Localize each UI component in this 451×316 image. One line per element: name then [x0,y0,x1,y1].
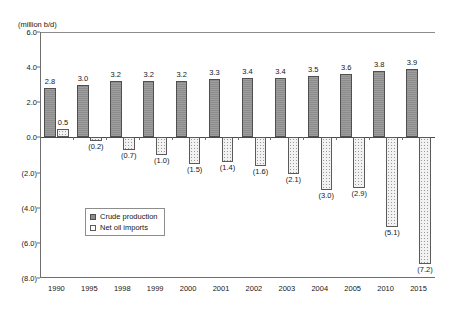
bar-crude-production [209,79,221,137]
bar-value-label-crude: 3.2 [111,70,121,79]
bar-value-label-crude: 3.4 [242,67,252,76]
x-axis-category-label: 2003 [279,284,296,293]
bar-value-label-crude: 3.8 [374,60,384,69]
chart-legend: Crude production Net oil imports [85,208,165,236]
x-axis-tick-mark [303,137,304,140]
bar-value-label-crude: 3.3 [209,68,219,77]
bar-net-oil-imports [386,137,398,227]
legend-item-net-oil-imports: Net oil imports [90,223,158,232]
x-axis-category-label: 2015 [410,284,427,293]
x-axis-tick-mark [270,137,271,140]
x-axis-category-label: 1995 [81,284,98,293]
y-axis-tick-mark [37,207,40,208]
y-axis-tick-mark [37,67,40,68]
bar-value-label-crude: 3.6 [341,63,351,72]
bar-net-oil-imports [123,137,135,149]
bar-crude-production [308,76,320,138]
bar-value-label-imports: (5.1) [384,228,399,237]
bar-net-oil-imports [255,137,267,165]
y-axis-tick-label: (8.0) [22,274,37,283]
bar-crude-production [275,78,287,138]
bar-crude-production [176,81,188,137]
x-axis-category-label: 2005 [344,284,361,293]
y-axis-line [40,32,41,278]
bar-crude-production [373,71,385,138]
y-axis-tick-label: (4.0) [22,203,37,212]
bar-net-oil-imports [288,137,300,174]
x-axis-tick-mark [238,137,239,140]
x-axis-category-label: 1999 [147,284,164,293]
x-axis-baseline [40,277,435,278]
bar-value-label-imports: 0.5 [58,118,68,127]
bar-net-oil-imports [321,137,333,190]
bar-value-label-imports: (1.0) [154,156,169,165]
top-gridline [40,32,435,33]
y-axis-tick-label: 6.0 [27,28,37,37]
x-axis-tick-mark [402,137,403,140]
chart-container: (million b/d) 6.04.02.00.0(2.0)(4.0)(6.0… [0,0,451,316]
bar-value-label-imports: (2.1) [286,175,301,184]
legend-label-net-oil-imports: Net oil imports [100,223,148,232]
bar-crude-production [110,81,122,137]
x-axis-tick-mark [40,137,41,140]
y-axis-tick-mark [37,172,40,173]
y-axis-tick-mark [37,102,40,103]
bar-value-label-imports: (0.7) [121,151,136,160]
x-axis-tick-mark [205,137,206,140]
legend-swatch-crude-icon [90,214,96,220]
y-axis-tick-label: 0.0 [27,133,37,142]
y-axis-tick-label: (6.0) [22,238,37,247]
legend-swatch-imports-icon [90,225,96,231]
x-axis-tick-mark [172,137,173,140]
bar-value-label-imports: (1.5) [187,165,202,174]
bar-crude-production [340,74,352,137]
bar-value-label-crude: 2.8 [45,77,55,86]
x-axis-tick-mark [336,137,337,140]
bar-value-label-imports: (2.9) [351,189,366,198]
plot-area: 6.04.02.00.0(2.0)(4.0)(6.0)(8.0) 2.80.53… [40,32,435,278]
legend-item-crude-production: Crude production [90,212,158,221]
bar-net-oil-imports [57,129,69,138]
bar-net-oil-imports [90,137,102,141]
bar-value-label-imports: (7.2) [417,265,432,274]
bar-value-label-crude: 3.2 [176,70,186,79]
x-axis-tick-mark [73,137,74,140]
bar-value-label-crude: 3.0 [78,74,88,83]
x-axis-tick-mark [106,137,107,140]
x-axis-tick-mark [139,137,140,140]
bar-value-label-imports: (1.4) [220,163,235,172]
y-axis-tick-label: 4.0 [27,63,37,72]
bar-value-label-crude: 3.2 [143,70,153,79]
bar-net-oil-imports [353,137,365,188]
y-axis-unit-label: (million b/d) [18,20,57,29]
bar-crude-production [77,85,89,138]
bar-value-label-crude: 3.4 [275,67,285,76]
bar-value-label-imports: (3.0) [319,191,334,200]
bar-value-label-imports: (1.6) [253,167,268,176]
bar-net-oil-imports [419,137,431,264]
y-axis-tick-mark [37,242,40,243]
y-axis-tick-mark [37,32,40,33]
bar-value-label-imports: (0.2) [88,142,103,151]
x-axis-category-label: 1998 [114,284,131,293]
bar-crude-production [44,88,56,137]
bar-value-label-crude: 3.5 [308,65,318,74]
x-axis-tick-mark [369,137,370,140]
legend-label-crude-production: Crude production [100,212,158,221]
bar-crude-production [143,81,155,137]
x-axis-category-label: 2010 [377,284,394,293]
y-axis-tick-label: 2.0 [27,98,37,107]
x-axis-category-label: 2000 [180,284,197,293]
bar-net-oil-imports [189,137,201,163]
bar-net-oil-imports [156,137,168,155]
bar-crude-production [406,69,418,138]
x-axis-category-label: 1990 [48,284,65,293]
bar-net-oil-imports [222,137,234,162]
x-axis-category-label: 2002 [246,284,263,293]
bar-value-label-crude: 3.9 [407,58,417,67]
y-axis-tick-label: (2.0) [22,168,37,177]
y-axis-tick-mark [37,278,40,279]
bar-crude-production [242,78,254,138]
x-axis-category-label: 2004 [311,284,328,293]
x-axis-category-label: 2001 [213,284,230,293]
